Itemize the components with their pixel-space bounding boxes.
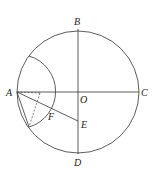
label-B: B xyxy=(74,16,80,27)
label-O: O xyxy=(80,94,87,105)
label-C: C xyxy=(141,87,148,98)
geometry-diagram: A B C D O E F xyxy=(0,0,160,177)
label-D: D xyxy=(73,157,82,168)
label-A: A xyxy=(5,87,13,98)
label-E: E xyxy=(80,119,87,130)
label-F: F xyxy=(47,111,55,122)
